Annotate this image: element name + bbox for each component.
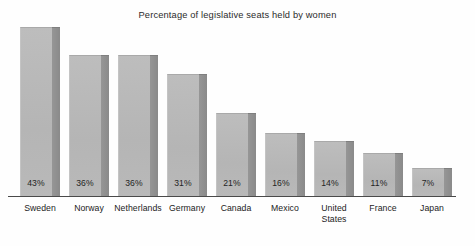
bar-france: 11% bbox=[363, 153, 403, 196]
bar-value-label: 21% bbox=[216, 178, 248, 188]
bar-mexico: 16% bbox=[265, 133, 305, 196]
bar-side-face bbox=[297, 133, 305, 196]
bar-front-face bbox=[118, 55, 150, 196]
bar-side-face bbox=[346, 141, 354, 196]
category-label-japan: Japan bbox=[402, 203, 462, 214]
bar-body: 36% bbox=[69, 55, 109, 196]
bar-side-face bbox=[101, 55, 109, 196]
bar-side-face bbox=[150, 55, 158, 196]
bar-value-label: 31% bbox=[167, 178, 199, 188]
bar-value-label: 43% bbox=[20, 178, 52, 188]
bar-body: 36% bbox=[118, 55, 158, 196]
bar-side-face bbox=[52, 27, 60, 196]
bar-front-face bbox=[69, 55, 101, 196]
bar-body: 16% bbox=[265, 133, 305, 196]
bar-body: 43% bbox=[20, 27, 60, 196]
bar-norway: 36% bbox=[69, 55, 109, 196]
bar-body: 21% bbox=[216, 113, 256, 196]
bar-value-label: 36% bbox=[69, 178, 101, 188]
bar-japan: 7% bbox=[412, 168, 452, 196]
plot-area: 43%36%36%31%21%16%14%11%7% bbox=[0, 0, 475, 200]
category-label-line: Japan bbox=[402, 203, 462, 214]
bar-germany: 31% bbox=[167, 74, 207, 196]
bar-side-face bbox=[199, 74, 207, 196]
bar-side-face bbox=[248, 113, 256, 196]
bar-value-label: 11% bbox=[363, 178, 395, 188]
bar-value-label: 14% bbox=[314, 178, 346, 188]
bar-side-face bbox=[444, 168, 452, 196]
bar-body: 14% bbox=[314, 141, 354, 196]
bar-value-label: 7% bbox=[412, 178, 444, 188]
bar-value-label: 16% bbox=[265, 178, 297, 188]
bar-canada: 21% bbox=[216, 113, 256, 196]
bar-body: 31% bbox=[167, 74, 207, 196]
bar-netherlands: 36% bbox=[118, 55, 158, 196]
bar-sweden: 43% bbox=[20, 27, 60, 196]
bar-united-states: 14% bbox=[314, 141, 354, 196]
bar-side-face bbox=[395, 153, 403, 196]
category-label-line: States bbox=[304, 214, 364, 225]
bar-chart: Percentage of legislative seats held by … bbox=[0, 0, 475, 246]
bar-body: 11% bbox=[363, 153, 403, 196]
x-axis-line bbox=[8, 196, 456, 197]
bar-front-face bbox=[363, 153, 395, 196]
bar-value-label: 36% bbox=[118, 178, 150, 188]
bar-front-face bbox=[20, 27, 52, 196]
bar-body: 7% bbox=[412, 168, 452, 196]
